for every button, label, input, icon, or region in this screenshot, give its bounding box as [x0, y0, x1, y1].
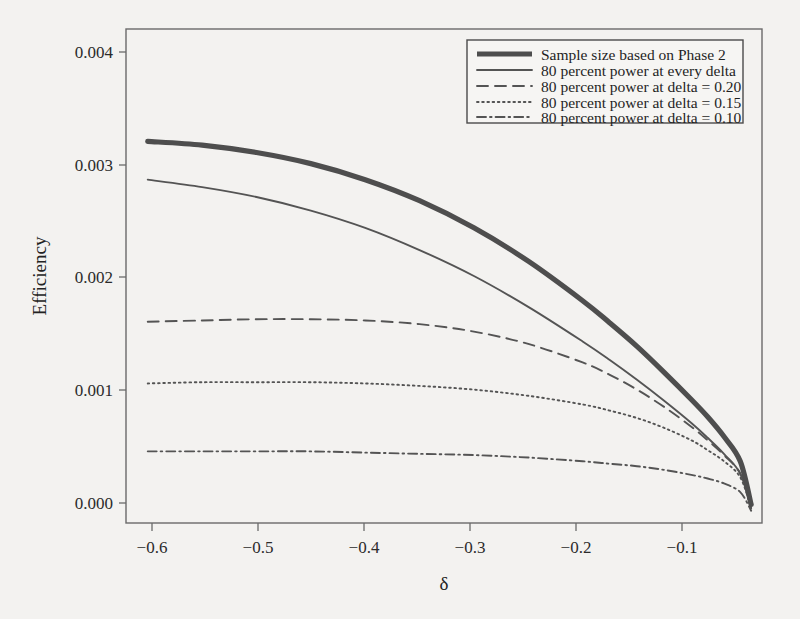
- y-tick-label: 0.000: [75, 494, 113, 513]
- x-axis-title: δ: [440, 573, 449, 594]
- chart-legend: Sample size based on Phase 2 80 percent …: [467, 40, 743, 126]
- x-tick-label: −0.2: [561, 538, 592, 557]
- y-tick-label: 0.001: [75, 381, 113, 400]
- x-tick-label: −0.5: [243, 538, 274, 557]
- x-tick-label: −0.6: [137, 538, 168, 557]
- efficiency-line-chart: 0.004 0.003 0.002 0.001 0.000 −0.6 −0.5 …: [0, 0, 800, 619]
- x-tick-label: −0.1: [667, 538, 698, 557]
- legend-item-label: 80 percent power at delta = 0.20: [541, 78, 742, 95]
- y-tick-label: 0.002: [75, 268, 113, 287]
- y-axis-title: Efficiency: [29, 236, 50, 315]
- legend-item-label: Sample size based on Phase 2: [541, 46, 726, 63]
- x-tick-label: −0.3: [455, 538, 486, 557]
- x-tick-label: −0.4: [349, 538, 380, 557]
- chart-figure: 0.004 0.003 0.002 0.001 0.000 −0.6 −0.5 …: [0, 0, 800, 619]
- legend-item-label: 80 percent power at every delta: [541, 62, 736, 79]
- y-tick-label: 0.004: [75, 43, 114, 62]
- legend-item-label: 80 percent power at delta = 0.10: [541, 109, 742, 126]
- y-tick-label: 0.003: [75, 156, 113, 175]
